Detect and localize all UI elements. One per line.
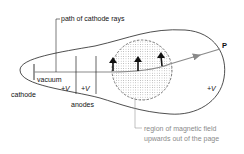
vacuum-label: vacuum (37, 76, 62, 83)
diagram-canvas: path of cathode rays vacuum cathode +V +… (0, 0, 244, 154)
path-leader (56, 19, 60, 72)
field-label-line2: upwards out of the page (144, 135, 219, 143)
path-label: path of cathode rays (61, 15, 125, 23)
screen-voltage: +V (207, 85, 217, 92)
anode-1-voltage: +V (61, 85, 71, 92)
beam-to-screen (200, 49, 220, 55)
field-leader (135, 98, 142, 128)
anode-2-voltage: +V (81, 85, 91, 92)
cathode-label: cathode (11, 91, 36, 98)
anodes-label: anodes (71, 101, 94, 108)
cathode-ray-tube-diagram: path of cathode rays vacuum cathode +V +… (0, 0, 244, 154)
field-label-line1: region of magnetic field (144, 125, 216, 133)
point-p-label: P (222, 41, 227, 50)
